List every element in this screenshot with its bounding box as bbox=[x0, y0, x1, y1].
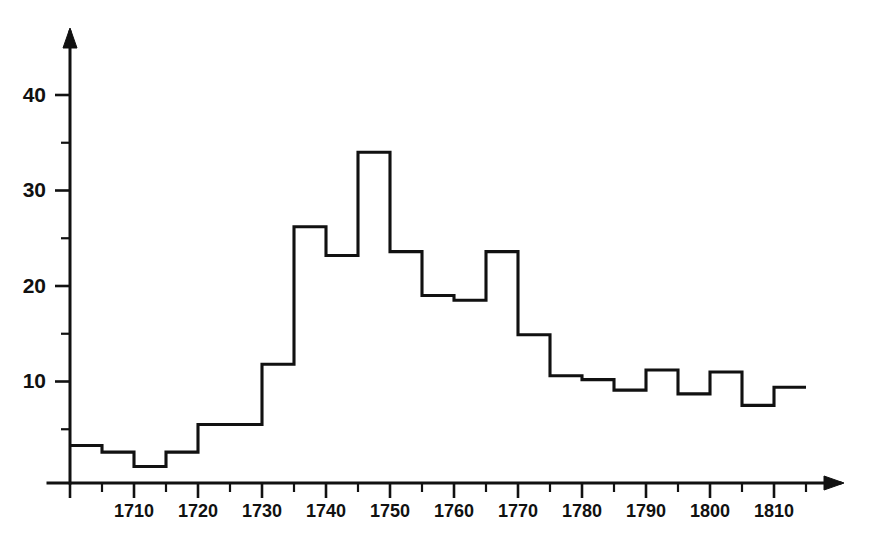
data-series-group bbox=[70, 152, 806, 466]
x-tick-label: 1730 bbox=[242, 501, 282, 521]
x-axis-tick-labels: 1710172017301740175017601770178017901800… bbox=[114, 501, 794, 521]
y-tick-label: 30 bbox=[23, 178, 46, 201]
y-axis-ticks bbox=[55, 95, 70, 429]
x-tick-label: 1720 bbox=[178, 501, 218, 521]
x-axis-ticks bbox=[70, 483, 806, 498]
x-tick-label: 1790 bbox=[626, 501, 666, 521]
y-axis-group: 10203040 bbox=[23, 28, 77, 483]
step-series-line bbox=[70, 152, 806, 466]
x-tick-label: 1750 bbox=[370, 501, 410, 521]
x-tick-label: 1760 bbox=[434, 501, 474, 521]
x-tick-label: 1800 bbox=[690, 501, 730, 521]
y-axis-arrowhead bbox=[63, 28, 77, 48]
x-tick-label: 1780 bbox=[562, 501, 602, 521]
x-axis-group: 1710172017301740175017601770178017901800… bbox=[48, 476, 844, 521]
y-tick-label: 40 bbox=[23, 83, 46, 106]
x-tick-label: 1770 bbox=[498, 501, 538, 521]
chart-container: 10203040 1710172017301740175017601770178… bbox=[0, 0, 872, 536]
x-tick-label: 1810 bbox=[754, 501, 794, 521]
y-tick-label: 20 bbox=[23, 274, 46, 297]
x-tick-label: 1710 bbox=[114, 501, 154, 521]
step-chart: 10203040 1710172017301740175017601770178… bbox=[0, 0, 872, 536]
x-tick-label: 1740 bbox=[306, 501, 346, 521]
y-tick-label: 10 bbox=[23, 369, 46, 392]
x-axis-arrowhead bbox=[824, 476, 844, 490]
y-axis-tick-labels: 10203040 bbox=[23, 83, 46, 393]
